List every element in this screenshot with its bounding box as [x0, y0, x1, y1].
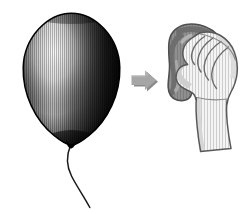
illustration-canvas: A balloon on a string, an arrow, and a h…	[0, 0, 250, 214]
illustration-svg	[0, 0, 250, 214]
